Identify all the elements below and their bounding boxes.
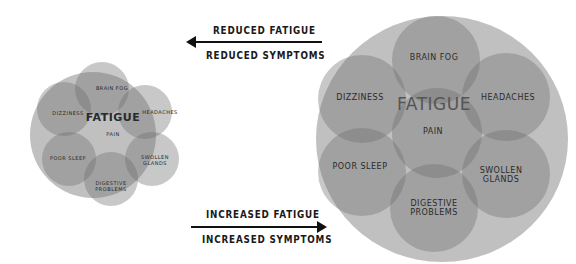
reduce-fatigue-label: REDUCED FATIGUE [213, 24, 316, 37]
small-label-headaches: HEADACHES [142, 110, 178, 116]
small-circle-dizziness [37, 82, 91, 136]
small-label-poor-sleep: POOR SLEEP [50, 156, 86, 162]
arrow-right-icon [317, 221, 327, 233]
small-label-swollen-glands: SWOLLEN GLANDS [140, 155, 170, 166]
small-label-brain-fog: BRAIN FOG [96, 86, 128, 92]
large-label-headaches: HEADACHES [481, 94, 535, 103]
increase-fatigue-label: INCREASED FATIGUE [206, 208, 320, 221]
reduce-symptoms-label: REDUCED SYMPTOMS [206, 49, 325, 62]
large-label-brain-fog: BRAIN FOG [410, 54, 459, 63]
increase-arrow-line [191, 226, 319, 228]
large-label-poor-sleep: POOR SLEEP [333, 163, 388, 172]
large-label-swollen-glands: SWOLLEN GLANDS [476, 167, 526, 185]
small-label-digestive: DIGESTIVE PROBLEMS [94, 181, 128, 192]
large-label-fatigue: FATIGUE [397, 95, 471, 114]
small-label-pain: PAIN [106, 132, 119, 138]
large-label-digestive: DIGESTIVE PROBLEMS [405, 200, 463, 218]
large-label-pain: PAIN [423, 128, 443, 137]
increase-symptoms-label: INCREASED SYMPTOMS [202, 233, 332, 246]
small-label-fatigue: FATIGUE [86, 112, 140, 124]
small-label-dizziness: DIZZINESS [52, 111, 83, 117]
reduce-arrow-line [194, 41, 322, 43]
large-label-dizziness: DIZZINESS [336, 94, 384, 103]
